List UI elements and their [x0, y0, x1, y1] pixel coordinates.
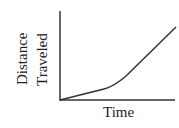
y-axis-label-line2: Traveled: [35, 33, 50, 86]
x-axis-label: Time: [103, 104, 134, 121]
y-axis-label-line1: Distance: [15, 33, 30, 85]
distance-curve: [60, 27, 176, 100]
